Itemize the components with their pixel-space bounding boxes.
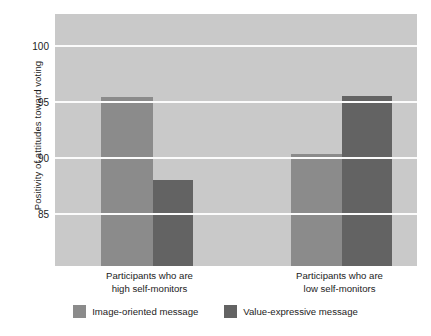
gridline-90 [55,157,417,159]
x-axis-category-high-line-1: Participants who are [82,270,217,283]
bar-chart-figure: Positivity of attitudes toward voting 85… [0,0,431,336]
x-axis-category-high-self-monitors: Participants who are high self-monitors [82,270,217,295]
legend-item-image-oriented: Image-oriented message [73,305,198,318]
bar-high-self-monitors-image-oriented [101,97,153,266]
legend-item-value-expressive: Value-expressive message [224,305,357,318]
x-axis-category-low-line-2: low self-monitors [272,283,407,296]
gridline-85 [55,213,417,215]
gridline-100 [55,45,417,47]
legend-label-image-oriented: Image-oriented message [92,306,198,317]
legend-swatch-icon-image-oriented [73,305,86,318]
y-axis-tick-90: 90 [16,153,49,164]
bar-low-self-monitors-image-oriented [291,154,342,266]
gridline-95 [55,101,417,103]
y-axis-tick-95: 95 [16,97,49,108]
plot-area [55,14,417,266]
bar-low-self-monitors-value-expressive [342,96,392,266]
x-axis-category-high-line-2: high self-monitors [82,283,217,296]
x-axis-category-low-line-1: Participants who are [272,270,407,283]
bar-high-self-monitors-value-expressive [153,180,193,266]
y-axis-tick-85: 85 [16,209,49,220]
chart-legend: Image-oriented message Value-expressive … [0,305,431,318]
y-axis-tick-100: 100 [16,41,49,52]
legend-swatch-icon-value-expressive [224,305,237,318]
x-axis-category-low-self-monitors: Participants who are low self-monitors [272,270,407,295]
legend-label-value-expressive: Value-expressive message [243,306,357,317]
